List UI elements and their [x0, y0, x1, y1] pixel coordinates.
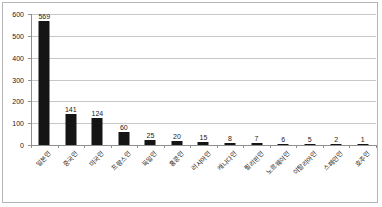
bar-value-label: 20: [173, 133, 181, 140]
y-axis-tick-mark: [28, 80, 31, 81]
x-axis-tick-mark: [31, 145, 32, 148]
bar-value-label: 569: [38, 13, 50, 20]
chart-frame: 56914112460252015876521 0100200300400500…: [2, 2, 378, 203]
x-axis-tick-mark: [190, 145, 191, 148]
y-axis-tick-label: 0: [3, 142, 24, 149]
bar[interactable]: [39, 21, 50, 145]
x-axis-category-label-text: 중국인: [61, 150, 79, 168]
x-axis-tick-mark: [137, 145, 138, 148]
bar-slot: 60: [111, 14, 138, 145]
x-axis-tick-mark: [376, 145, 377, 148]
y-axis-tick-mark: [28, 36, 31, 37]
x-axis-tick-mark: [349, 145, 350, 148]
x-axis-tick-mark: [111, 145, 112, 148]
bar-slot: 5: [296, 14, 323, 145]
bar-value-label: 141: [65, 106, 77, 113]
plot-area: 56914112460252015876521: [31, 14, 376, 145]
x-axis-category-label-text: 필리핀인: [243, 150, 265, 172]
bar-value-label: 1: [361, 136, 365, 143]
bar-slot: 2: [323, 14, 350, 145]
x-axis-category-label-text: 프랑스인: [110, 150, 132, 172]
x-axis-category-label-text: 호주인: [353, 150, 371, 168]
bar-value-label: 15: [200, 134, 208, 141]
x-axis-tick-mark: [217, 145, 218, 148]
bar[interactable]: [65, 114, 76, 145]
x-axis-category-label-text: 일본인: [35, 150, 53, 168]
bar-slot: 569: [31, 14, 58, 145]
y-axis-tick-label: 200: [3, 98, 24, 105]
y-axis-tick-mark: [28, 58, 31, 59]
y-axis-tick-mark: [28, 14, 31, 15]
x-axis-tick-mark: [296, 145, 297, 148]
bar-slot: 20: [164, 14, 191, 145]
x-axis-category-label-text: 독일인: [141, 150, 159, 168]
y-axis-tick-mark: [28, 123, 31, 124]
x-axis-tick-mark: [164, 145, 165, 148]
bar[interactable]: [118, 132, 129, 145]
x-axis-tick-mark: [243, 145, 244, 148]
y-axis-tick-label: 400: [3, 54, 24, 61]
x-axis-category-label-text: 러시아인: [190, 150, 212, 172]
x-axis-category-label-text: 이탈리아인: [291, 150, 317, 176]
x-axis-tick-mark: [323, 145, 324, 148]
bar-slot: 8: [217, 14, 244, 145]
bar-slot: 1: [349, 14, 376, 145]
y-axis-tick-mark: [28, 101, 31, 102]
bar-slot: 6: [270, 14, 297, 145]
bar-slot: 15: [190, 14, 217, 145]
bar-value-label: 7: [255, 135, 259, 142]
x-axis: 일본인중국인미국인프랑스인독일인홍콩인러시아인캐나다인필리핀인노르웨이인이탈리아…: [31, 145, 376, 203]
y-axis-tick-label: 300: [3, 76, 24, 83]
x-axis-tick-mark: [58, 145, 59, 148]
x-axis-category-label-text: 스페인인: [322, 150, 344, 172]
bar-value-label: 8: [228, 135, 232, 142]
y-axis-line: [31, 14, 32, 145]
x-axis-category-label-text: 노르웨이인: [265, 150, 291, 176]
bar-slot: 141: [58, 14, 85, 145]
bar[interactable]: [92, 118, 103, 145]
bar-slot: 124: [84, 14, 111, 145]
x-axis-category-label-text: 캐나다인: [216, 150, 238, 172]
bar-slot: 7: [243, 14, 270, 145]
bar-value-label: 60: [120, 124, 128, 131]
bar-slot: 25: [137, 14, 164, 145]
bar-value-label: 6: [281, 136, 285, 143]
x-axis-category-label-text: 미국인: [88, 150, 106, 168]
x-axis-tick-mark: [84, 145, 85, 148]
y-axis-tick-label: 600: [3, 11, 24, 18]
y-axis-tick-label: 100: [3, 120, 24, 127]
bar-value-label: 124: [91, 110, 103, 117]
y-axis-tick-label: 500: [3, 32, 24, 39]
x-axis-tick-mark: [270, 145, 271, 148]
x-axis-category-label-text: 홍콩인: [167, 150, 185, 168]
